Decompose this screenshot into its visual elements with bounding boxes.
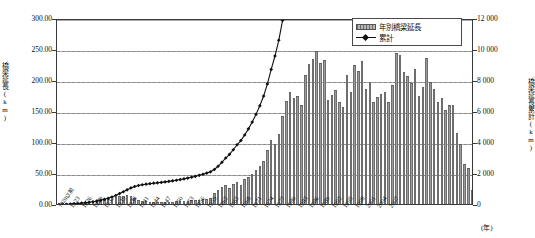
line-marker [190,175,194,179]
line-marker [197,173,201,177]
line-marker [281,20,285,22]
legend-bar-swatch-icon [356,24,376,30]
line-marker [122,190,126,194]
y-axis-left-tick-label: 200.00 [8,77,52,85]
line-marker [194,174,198,178]
y-axis-right-tick-label: 12 000 [477,15,525,23]
line-marker [273,54,277,58]
line-marker [144,182,148,186]
x-axis-tick-labels: 1920以前1923192619291932193519381941194419… [56,205,473,238]
line-marker [266,82,270,86]
y-axis-left-tick-label: 50.00 [8,170,52,178]
plot-area [56,19,473,205]
line-marker [133,185,137,189]
line-marker [182,177,186,181]
line-marker [254,113,258,117]
line-series-累計 [57,20,473,205]
y-axis-right-tick-label: 8 000 [477,77,525,85]
line-marker [269,68,273,72]
line-marker [159,181,163,185]
y-axis-right-tickmark [473,112,477,113]
line-marker [140,183,144,187]
y-axis-left-tick-label: 250.00 [8,46,52,54]
chart-legend: 年別橋梁延長 累計 [352,18,462,46]
legend-label-line: 累計 [379,32,393,43]
y-axis-right-tick-label: 4 000 [477,139,525,147]
y-axis-left-tick-label: 150.00 [8,108,52,116]
line-marker [148,182,152,186]
y-axis-left-tick-label: 0.00 [8,201,52,209]
legend-item-bar: 年別橋梁延長 [356,21,458,32]
line-marker [258,104,262,108]
y-axis-right-tickmark [473,50,477,51]
line-marker [262,94,266,98]
line-marker [201,172,205,176]
line-marker [137,184,141,188]
line-marker [171,179,175,183]
legend-label-bar: 年別橋梁延長 [379,21,421,32]
y-axis-left-tick-label: 100.00 [8,139,52,147]
line-marker [167,180,171,184]
line-marker [125,188,129,192]
line-marker [175,178,179,182]
y-axis-left-tick-label: 300.00 [8,15,52,23]
legend-item-line: 累計 [356,32,458,43]
line-marker [186,176,190,180]
line-marker [205,171,209,175]
y-axis-right-tick-label: 6 000 [477,108,525,116]
line-marker [156,181,160,185]
x-axis-unit-label: (年) [481,222,493,232]
legend-line-swatch-icon [356,35,376,41]
y-axis-right-tickmark [473,174,477,175]
y-axis-right-tick-label: 0 [477,201,525,209]
y-axis-right-title: 橋梁延長累計(km) [527,78,535,152]
y-axis-right-tickmark [473,205,477,206]
line-marker [277,38,281,42]
chart-root: 橋梁延長(km) 橋梁延長累計(km) 300.00250.00200.0015… [0,0,535,238]
y-axis-right-tickmark [473,19,477,20]
y-axis-right-tickmark [473,81,477,82]
line-marker [163,180,167,184]
y-axis-right-tickmark [473,143,477,144]
line-marker [114,194,118,198]
line-marker [129,186,133,190]
line-marker [178,178,182,182]
y-axis-right-tick-label: 10 000 [477,46,525,54]
line-marker [152,181,156,185]
y-axis-right-tick-label: 2 000 [477,170,525,178]
